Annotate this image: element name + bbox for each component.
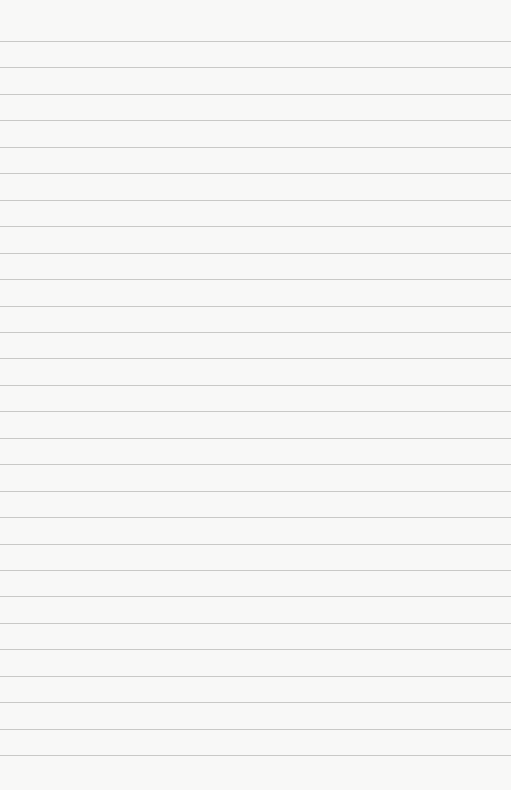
ruled-line [0, 570, 511, 571]
ruled-line [0, 173, 511, 174]
ruled-line [0, 676, 511, 677]
ruled-line [0, 702, 511, 703]
ruled-line [0, 253, 511, 254]
lined-paper-page [0, 0, 511, 790]
ruled-line [0, 649, 511, 650]
ruled-line [0, 755, 511, 756]
ruled-line [0, 411, 511, 412]
ruled-line [0, 147, 511, 148]
ruled-line [0, 491, 511, 492]
ruled-line [0, 41, 511, 42]
ruled-line [0, 226, 511, 227]
ruled-line [0, 120, 511, 121]
ruled-line [0, 544, 511, 545]
ruled-line [0, 729, 511, 730]
ruled-line [0, 517, 511, 518]
ruled-line [0, 358, 511, 359]
ruled-line [0, 385, 511, 386]
ruled-line [0, 279, 511, 280]
ruled-line [0, 94, 511, 95]
ruled-line [0, 67, 511, 68]
ruled-line [0, 200, 511, 201]
ruled-line [0, 623, 511, 624]
ruled-line [0, 438, 511, 439]
ruled-line [0, 596, 511, 597]
ruled-line [0, 464, 511, 465]
ruled-line [0, 306, 511, 307]
ruled-line [0, 332, 511, 333]
